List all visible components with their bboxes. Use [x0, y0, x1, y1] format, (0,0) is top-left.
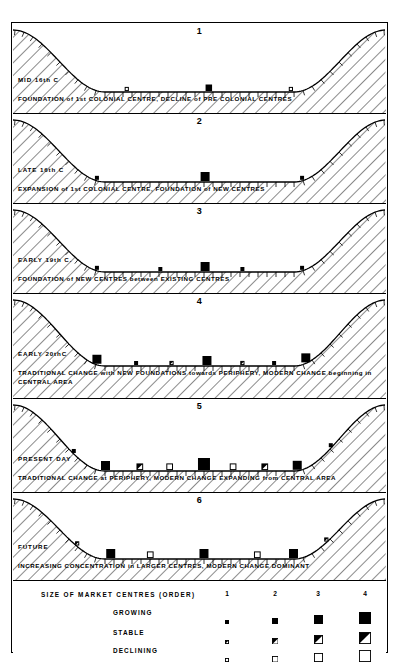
market-centre-symbol-stable	[262, 464, 268, 470]
market-centre-symbol-declining	[314, 653, 322, 661]
market-centre-symbol-stable	[272, 638, 278, 644]
market-centre-symbol-growing	[300, 176, 304, 180]
market-centre-symbol-declining	[225, 658, 228, 661]
market-centre-symbol-growing	[329, 443, 333, 447]
market-centre-symbol-declining	[289, 87, 292, 90]
market-centre-symbol-growing	[72, 449, 76, 453]
market-centre-symbol-growing	[95, 176, 99, 180]
legend-title: SIZE OF MARKET CENTRES (ORDER)	[41, 591, 195, 598]
legend-symbol-growing-order-3	[314, 610, 323, 619]
market-centre-symbol-growing	[314, 615, 323, 624]
market-centre-symbol-growing	[134, 361, 138, 365]
market-centre-symbol-stable	[325, 538, 328, 541]
market-centre-symbol-declining	[167, 464, 173, 470]
legend-row-label-declining: DECLINING	[113, 647, 158, 654]
legend-order-3: 3	[308, 590, 328, 597]
market-centre-symbol-stable	[225, 640, 228, 643]
panel-profile-3	[13, 204, 386, 294]
legend-symbol-growing-order-2	[272, 610, 279, 617]
panel-6: 6FUTUREINCREASING CONCENTRATION in LARGE…	[13, 493, 386, 581]
market-centre-symbol-growing	[225, 620, 229, 624]
panel-1: 1MID 16th CFOUNDATION of 1st COLONIAL CE…	[13, 24, 386, 114]
legend-row-label-growing: GROWING	[113, 609, 153, 616]
market-centre-symbol-declining	[272, 656, 278, 662]
market-centre-symbol-growing	[158, 267, 162, 271]
legend-symbol-growing-order-4	[359, 610, 371, 622]
market-centre-symbol-growing	[359, 612, 371, 624]
market-centre-symbol-declining	[254, 552, 260, 558]
legend-symbol-declining-order-4	[359, 648, 371, 660]
market-centre-symbol-stable	[359, 632, 370, 643]
legend-symbol-declining-order-3	[314, 648, 323, 657]
panel-profile-1	[13, 24, 386, 114]
panel-3: 3EARLY 19th C.FOUNDATION of NEW CENTRES …	[13, 204, 386, 294]
hatched-ground	[13, 499, 386, 581]
panel-profile-5	[13, 399, 386, 493]
market-centre-symbol-growing	[301, 353, 310, 362]
market-centre-symbol-growing	[293, 461, 302, 470]
legend-order-2: 2	[265, 590, 285, 597]
legend-symbol-stable-order-4	[359, 630, 371, 642]
hatched-ground	[13, 300, 386, 399]
market-centre-symbol-growing	[300, 266, 304, 270]
legend-symbol-stable-order-2	[272, 630, 279, 637]
legend-row-label-stable: STABLE	[113, 629, 145, 636]
legend-symbol-declining-order-1	[225, 648, 229, 652]
market-centre-symbol-growing	[201, 172, 210, 181]
legend-symbol-stable-order-1	[225, 630, 229, 634]
market-centre-symbol-growing	[106, 549, 115, 558]
panel-2: 2LATE 16th CEXPANSION of 1st COLONIAL CE…	[13, 114, 386, 204]
market-centre-symbol-growing	[198, 458, 210, 470]
market-centre-symbol-growing	[101, 461, 110, 470]
market-centre-symbol-growing	[289, 549, 298, 558]
market-centre-symbol-growing	[202, 356, 211, 365]
market-centre-symbol-growing	[95, 266, 99, 270]
legend-order-1: 1	[217, 590, 237, 597]
panel-profile-2	[13, 114, 386, 204]
legend-symbol-stable-order-3	[314, 630, 323, 639]
market-centre-symbol-stable	[241, 361, 244, 364]
market-centre-symbol-stable	[314, 635, 322, 643]
market-centre-symbol-stable	[170, 361, 173, 364]
panel-stack: 1MID 16th CFOUNDATION of 1st COLONIAL CE…	[13, 24, 386, 665]
market-centre-symbol-growing	[199, 549, 208, 558]
figure-root: 1MID 16th CFOUNDATION of 1st COLONIAL CE…	[0, 0, 399, 665]
market-centre-symbol-declining	[359, 650, 370, 661]
market-centre-symbol-growing	[272, 361, 276, 365]
market-centre-symbol-declining	[125, 87, 128, 90]
panel-4: 4EARLY 20thCTRADITIONAL CHANGE with NEW …	[13, 294, 386, 399]
market-centre-symbol-growing	[206, 85, 213, 92]
market-centre-symbol-growing	[201, 262, 210, 271]
legend: SIZE OF MARKET CENTRES (ORDER)1234GROWIN…	[13, 581, 386, 665]
market-centre-symbol-declining	[230, 464, 236, 470]
market-centre-symbol-stable	[137, 464, 143, 470]
legend-order-4: 4	[355, 590, 375, 597]
market-centre-symbol-growing	[272, 618, 279, 625]
market-centre-symbol-growing	[240, 267, 244, 271]
market-centre-symbol-stable	[76, 542, 79, 545]
panel-profile-6	[13, 493, 386, 581]
panel-5: 5PRESENT DAYTRADITIONAL CHANGE at PERIPH…	[13, 399, 386, 493]
market-centre-symbol-growing	[92, 355, 101, 364]
legend-symbol-declining-order-2	[272, 648, 279, 655]
legend-symbol-growing-order-1	[225, 610, 229, 614]
panel-profile-4	[13, 294, 386, 399]
market-centre-symbol-declining	[147, 552, 153, 558]
